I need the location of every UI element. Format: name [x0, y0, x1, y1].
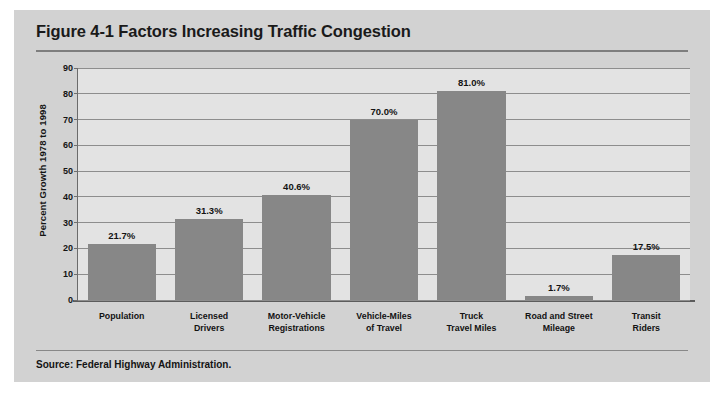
- plot-area: 0102030405060708090 21.7%Population31.3%…: [78, 68, 690, 300]
- y-axis-tick-label: 10: [63, 269, 73, 279]
- y-axis-tick-label: 80: [63, 89, 73, 99]
- bar-value-label: 17.5%: [633, 241, 660, 252]
- x-axis-category-label: TruckTravel Miles: [446, 310, 496, 334]
- y-axis-tick-mark: [74, 171, 78, 172]
- bar-value-label: 1.7%: [548, 282, 570, 293]
- bar[interactable]: 17.5%TransitRiders: [612, 255, 680, 300]
- y-axis-tick-label: 70: [63, 115, 73, 125]
- source-divider: [36, 350, 688, 351]
- y-axis-tick-mark: [74, 274, 78, 275]
- y-axis-tick-mark: [74, 119, 78, 120]
- bar-value-label: 31.3%: [196, 205, 223, 216]
- y-axis-tick-label: 40: [63, 192, 73, 202]
- x-axis-category-label: Vehicle-Milesof Travel: [356, 310, 411, 334]
- bar[interactable]: 40.6%Motor-VehicleRegistrations: [262, 195, 330, 300]
- bar-value-label: 21.7%: [108, 230, 135, 241]
- y-axis-tick-mark: [74, 222, 78, 223]
- y-axis-tick-label: 30: [63, 218, 73, 228]
- x-axis-category-label: TransitRiders: [632, 310, 661, 334]
- y-axis-title: Percent Growth 1978 to 1998: [37, 91, 48, 251]
- bar-value-label: 40.6%: [283, 181, 310, 192]
- x-axis-category-label: Road and StreetMileage: [525, 310, 592, 334]
- y-axis-tick-mark: [74, 248, 78, 249]
- bar-chart: Percent Growth 1978 to 1998 010203040506…: [14, 10, 710, 382]
- bar[interactable]: 70.0%Vehicle-Milesof Travel: [350, 120, 418, 300]
- y-axis-tick-mark: [74, 68, 78, 69]
- bar[interactable]: 21.7%Population: [88, 244, 156, 300]
- y-axis-tick-mark: [74, 196, 78, 197]
- x-axis-category-label: LicensedDrivers: [190, 310, 228, 334]
- source-note: Source: Federal Highway Administration.: [36, 359, 231, 370]
- bar[interactable]: 1.7%Road and StreetMileage: [525, 296, 593, 300]
- figure-panel: Figure 4-1 Factors Increasing Traffic Co…: [14, 10, 710, 382]
- x-axis-category-label: Population: [99, 310, 144, 322]
- y-axis-tick-label: 0: [68, 295, 73, 305]
- y-axis-tick-mark: [74, 145, 78, 146]
- y-axis-tick-label: 50: [63, 166, 73, 176]
- y-axis-tick-mark: [74, 300, 78, 301]
- gridline: [78, 68, 690, 69]
- y-axis-tick-label: 60: [63, 140, 73, 150]
- y-axis-line: [77, 68, 78, 300]
- bar-value-label: 81.0%: [458, 77, 485, 88]
- y-axis-tick-label: 90: [63, 63, 73, 73]
- y-axis-tick-label: 20: [63, 243, 73, 253]
- gridline: [78, 93, 690, 94]
- y-axis-tick-mark: [74, 93, 78, 94]
- bar[interactable]: 81.0%TruckTravel Miles: [437, 91, 505, 300]
- x-axis-category-label: Motor-VehicleRegistrations: [268, 310, 326, 334]
- bar-value-label: 70.0%: [371, 106, 398, 117]
- bar[interactable]: 31.3%LicensedDrivers: [175, 219, 243, 300]
